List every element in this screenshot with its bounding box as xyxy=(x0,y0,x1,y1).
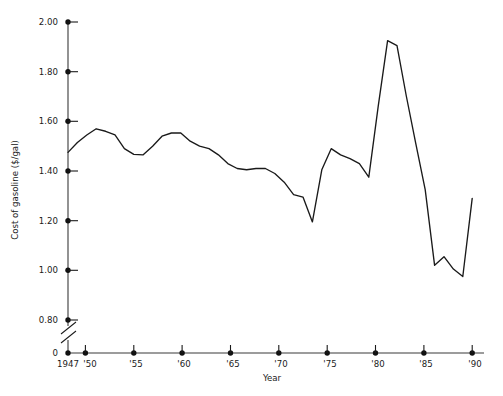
y-tick-0.80: 0.80 xyxy=(39,315,78,325)
y-tick-1.40: 1.40 xyxy=(39,166,78,176)
y-axis-label: Cost of gasoline ($/gal) xyxy=(10,140,20,240)
x-tick-1985: '85 xyxy=(419,345,432,369)
svg-text:'85: '85 xyxy=(419,359,432,369)
svg-text:0.80: 0.80 xyxy=(39,315,58,325)
x-tick-1970: '70 xyxy=(274,345,287,369)
x-axis-label: Year xyxy=(262,373,282,383)
x-tick-1955: '55 xyxy=(129,345,142,369)
svg-text:2.00: 2.00 xyxy=(39,17,58,27)
svg-text:'50: '50 xyxy=(83,359,96,369)
x-tick-1990: '90 xyxy=(468,345,481,369)
y-tick-2.00: 2.00 xyxy=(39,17,78,27)
axis-lines xyxy=(68,22,484,353)
x-axis-line xyxy=(68,340,484,353)
x-tick-1950: '50 xyxy=(83,345,97,369)
x-tick-1975: '75 xyxy=(323,345,336,369)
x-tick-1960: '60 xyxy=(177,345,190,369)
svg-text:0: 0 xyxy=(53,348,58,358)
chart-canvas: Cost of gasoline ($/gal) Year 2.00 1.80 xyxy=(0,0,503,396)
y-axis-ticks: 2.00 1.80 1.60 1.40 1.20 xyxy=(39,17,78,358)
svg-text:'60: '60 xyxy=(177,359,190,369)
svg-text:'70: '70 xyxy=(274,359,287,369)
svg-text:1.40: 1.40 xyxy=(39,166,58,176)
y-tick-1.20: 1.20 xyxy=(39,216,78,226)
svg-text:'75: '75 xyxy=(323,359,336,369)
svg-text:1.60: 1.60 xyxy=(39,116,58,126)
x-axis-ticks: 1947 '50 '55 '60 '65 xyxy=(57,345,482,369)
svg-text:'65: '65 xyxy=(226,359,239,369)
y-tick-0: 0 xyxy=(53,348,58,358)
y-tick-1.60: 1.60 xyxy=(39,116,78,126)
svg-text:1947: 1947 xyxy=(57,359,79,369)
svg-text:'90: '90 xyxy=(468,359,481,369)
svg-text:1.20: 1.20 xyxy=(39,216,58,226)
svg-text:1.80: 1.80 xyxy=(39,67,58,77)
x-tick-1980: '80 xyxy=(371,345,384,369)
svg-text:1.00: 1.00 xyxy=(39,265,58,275)
gasoline-price-series xyxy=(68,41,472,277)
svg-text:'80: '80 xyxy=(371,359,384,369)
y-tick-1.00: 1.00 xyxy=(39,265,78,275)
y-tick-1.80: 1.80 xyxy=(39,67,78,77)
x-tick-1965: '65 xyxy=(226,345,239,369)
gasoline-price-line-chart: Cost of gasoline ($/gal) Year 2.00 1.80 xyxy=(0,0,503,396)
svg-text:'55: '55 xyxy=(129,359,142,369)
